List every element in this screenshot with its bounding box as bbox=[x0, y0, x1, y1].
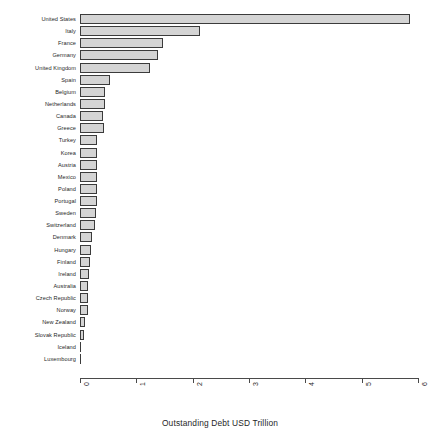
category-label: Switzerland bbox=[2, 220, 76, 230]
category-label: Korea bbox=[2, 148, 76, 158]
category-label: Italy bbox=[2, 26, 76, 36]
category-label: Turkey bbox=[2, 135, 76, 145]
bar-rect bbox=[80, 63, 150, 73]
x-tick-label: 1 bbox=[139, 382, 146, 386]
bar bbox=[80, 99, 105, 109]
bar-rect bbox=[80, 208, 96, 218]
category-label: France bbox=[2, 38, 76, 48]
bar-rect bbox=[80, 317, 85, 327]
bar bbox=[80, 330, 84, 340]
x-tick bbox=[305, 378, 306, 383]
category-label: Ireland bbox=[2, 269, 76, 279]
category-label: Austria bbox=[2, 160, 76, 170]
category-label: Hungary bbox=[2, 245, 76, 255]
bar bbox=[80, 26, 200, 36]
bar-rect bbox=[80, 354, 81, 364]
bar-chart: United StatesItalyFranceGermanyUnited Ki… bbox=[0, 0, 440, 446]
bar bbox=[80, 87, 105, 97]
bar bbox=[80, 208, 96, 218]
bar-rect bbox=[80, 184, 97, 194]
plot-area bbox=[80, 14, 418, 366]
bar bbox=[80, 111, 103, 121]
category-label: Netherlands bbox=[2, 99, 76, 109]
bar bbox=[80, 232, 92, 242]
bar bbox=[80, 38, 163, 48]
category-label: United States bbox=[2, 14, 76, 24]
bar bbox=[80, 305, 88, 315]
x-tick-label: 5 bbox=[365, 382, 372, 386]
bar-rect bbox=[80, 281, 88, 291]
bar bbox=[80, 63, 150, 73]
bar bbox=[80, 172, 97, 182]
bar-rect bbox=[80, 269, 89, 279]
category-label: Germany bbox=[2, 50, 76, 60]
bar bbox=[80, 281, 88, 291]
x-tick-label: 4 bbox=[308, 382, 315, 386]
x-tick bbox=[80, 378, 81, 383]
bar bbox=[80, 354, 81, 364]
bar bbox=[80, 148, 97, 158]
bar-rect bbox=[80, 26, 200, 36]
bar bbox=[80, 184, 97, 194]
bar-rect bbox=[80, 305, 88, 315]
bar-rect bbox=[80, 123, 104, 133]
category-label: Norway bbox=[2, 305, 76, 315]
x-tick-label: 6 bbox=[421, 382, 428, 386]
bar bbox=[80, 14, 410, 24]
bar-rect bbox=[80, 330, 84, 340]
bar-rect bbox=[80, 14, 410, 24]
bar-rect bbox=[80, 111, 103, 121]
bar bbox=[80, 317, 85, 327]
bar bbox=[80, 75, 110, 85]
bar-rect bbox=[80, 220, 95, 230]
category-label: Greece bbox=[2, 123, 76, 133]
bar-rect bbox=[80, 232, 92, 242]
category-label: Mexico bbox=[2, 172, 76, 182]
category-label: Slovak Republic bbox=[2, 330, 76, 340]
bar bbox=[80, 123, 104, 133]
bar-rect bbox=[80, 148, 97, 158]
bar bbox=[80, 160, 97, 170]
x-tick bbox=[418, 378, 419, 383]
bar bbox=[80, 245, 91, 255]
category-label: United Kingdom bbox=[2, 63, 76, 73]
bar bbox=[80, 293, 88, 303]
category-label: Iceland bbox=[2, 342, 76, 352]
category-label: Denmark bbox=[2, 232, 76, 242]
bar-rect bbox=[80, 342, 81, 352]
category-label: Sweden bbox=[2, 208, 76, 218]
bar-rect bbox=[80, 160, 97, 170]
bar-rect bbox=[80, 257, 90, 267]
category-label: Finland bbox=[2, 257, 76, 267]
bar-rect bbox=[80, 172, 97, 182]
x-tick bbox=[136, 378, 137, 383]
x-tick bbox=[193, 378, 194, 383]
bar-rect bbox=[80, 196, 97, 206]
bar-rect bbox=[80, 38, 163, 48]
category-label: Portugal bbox=[2, 196, 76, 206]
bar bbox=[80, 269, 89, 279]
bar bbox=[80, 135, 97, 145]
category-label: New Zealand bbox=[2, 317, 76, 327]
x-axis-title: Outstanding Debt USD Trillion bbox=[0, 418, 440, 428]
bar bbox=[80, 196, 97, 206]
x-tick bbox=[362, 378, 363, 383]
x-tick-label: 3 bbox=[252, 382, 259, 386]
category-label: Czech Republic bbox=[2, 293, 76, 303]
bar bbox=[80, 50, 158, 60]
bar-rect bbox=[80, 245, 91, 255]
category-label: Spain bbox=[2, 75, 76, 85]
bar-rect bbox=[80, 75, 110, 85]
category-label: Australia bbox=[2, 281, 76, 291]
bar-rect bbox=[80, 99, 105, 109]
x-tick-label: 2 bbox=[196, 382, 203, 386]
category-label: Canada bbox=[2, 111, 76, 121]
bar bbox=[80, 257, 90, 267]
x-tick bbox=[249, 378, 250, 383]
category-label: Luxembourg bbox=[2, 354, 76, 364]
bar-rect bbox=[80, 50, 158, 60]
category-label: Poland bbox=[2, 184, 76, 194]
category-label: Belgium bbox=[2, 87, 76, 97]
bar bbox=[80, 220, 95, 230]
x-tick-label: 0 bbox=[83, 382, 90, 386]
